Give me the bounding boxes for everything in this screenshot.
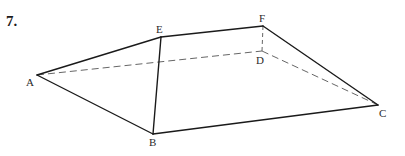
edge-A-D: [37, 51, 262, 75]
edge-A-B: [37, 75, 153, 134]
edge-E-F: [161, 26, 263, 37]
vertex-label-e: E: [156, 23, 163, 35]
vertex-label-f: F: [259, 12, 265, 24]
vertex-label-b: B: [149, 136, 156, 148]
edge-D-C: [262, 51, 378, 105]
vertex-label-c: C: [379, 107, 386, 119]
vertex-label-a: A: [26, 76, 34, 88]
vertex-label-d: D: [256, 54, 264, 66]
edge-F-D: [262, 26, 263, 51]
edge-E-B: [153, 37, 161, 134]
edge-F-C: [263, 26, 378, 105]
edge-B-C: [153, 105, 378, 134]
solid-edges: [37, 26, 378, 134]
dashed-edges: [37, 26, 378, 105]
polyhedron-figure: A B C D E F: [0, 0, 405, 156]
edge-A-E: [37, 37, 161, 75]
